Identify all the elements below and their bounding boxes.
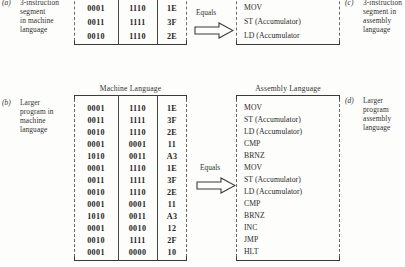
right-block-arrow-icon [196,177,236,194]
table-row: 0010 1111 2F [74,237,187,245]
cell-hex: 3F [157,177,187,185]
cell-operand: 0001 [118,141,157,149]
panel-c-label-line-1: segment in [363,7,405,16]
panel-a-label-line-0: 3-instruction [20,0,74,7]
cell-hex: A3 [157,153,187,161]
cell-operand: 1110 [118,105,157,113]
panel-b-tag: (b) [2,98,17,107]
list-item: CMP [244,200,260,208]
equals-label-top: Equals [196,8,216,17]
table-bottom-edge [74,44,187,45]
cell-opcode: 0010 [74,237,118,245]
table-row: 0001 0001 11 [74,201,187,209]
table-row: 0001 1110 1E [74,165,187,173]
equals-label-bottom: Equals [200,163,220,172]
cell-hex: 11 [157,201,187,209]
cell-opcode: 0001 [74,225,118,233]
list-item: MOV [244,164,262,172]
cell-hex: 2E [157,189,187,197]
table-bottom-edge [74,260,187,261]
cell-opcode: 0010 [74,129,118,137]
cell-hex: 2E [157,33,187,41]
table-row: 0001 0010 12 [74,225,187,233]
cell-operand: 0011 [118,213,157,221]
panel-d-caption: (d) Larger program assembly language [345,96,405,132]
cell-operand: 0000 [118,249,157,257]
table-row: 1010 0011 A3 [74,213,187,221]
cell-hex: 1E [157,165,187,173]
panel-b-label-line-0: Larger [20,98,74,107]
table-row: 0011 1111 3F [74,19,187,27]
cell-opcode: 0001 [74,201,118,209]
cell-opcode: 0010 [74,33,118,41]
panel-c-assembly-box: MOV ST (Accumulator) LD (Accumulator [236,0,340,45]
cell-hex: A3 [157,213,187,221]
table-row: 0011 1111 3F [74,177,187,185]
list-item: INC [244,224,257,232]
table-row: 0001 0000 10 [74,249,187,257]
table-row: 0010 1110 2E [74,33,187,41]
cell-hex: 11 [157,141,187,149]
list-item: BRNZ [244,212,265,220]
box-bottom-edge [236,260,340,261]
panel-a-label-line-2: in machine [20,16,74,25]
list-item: JMP [244,236,258,244]
panel-a-tag: (a) [2,0,17,7]
list-item: ST (Accumulator) [244,18,301,26]
cell-operand: 0010 [118,225,157,233]
panel-c-label-line-2: assembly [363,16,405,25]
panel-a-machine-table: 0001 1110 1E 0011 1111 3F 0010 1110 2E [74,0,187,45]
cell-opcode: 0011 [74,117,118,125]
cell-opcode: 0001 [74,105,118,113]
panel-d-label-line-1: program [363,105,405,114]
panel-b-label-line-1: program in [20,107,74,116]
panel-b-machine-table: 0001 1110 1E 0011 1111 3F 0010 1110 2E 0… [74,95,187,261]
panel-b-label-line-2: machine [20,116,74,125]
table-row: 1010 0011 A3 [74,153,187,161]
panel-d-label-line-3: language [363,123,405,132]
machine-language-heading: Machine Language [74,84,187,93]
cell-opcode: 0001 [74,5,118,13]
panel-c-label-line-0: 3-instruction [363,0,405,7]
panel-a-caption: (a) 3-instruction segment in machine lan… [2,0,74,34]
cell-operand: 1111 [118,117,157,125]
cell-opcode: 0011 [74,177,118,185]
cell-hex: 3F [157,117,187,125]
cell-opcode: 1010 [74,153,118,161]
panel-d-assembly-box: MOV ST (Accumulator) LD (Accumulator) CM… [236,95,340,261]
table-row: 0001 1110 1E [74,5,187,13]
cell-operand: 1110 [118,5,157,13]
cell-hex: 3F [157,19,187,27]
table-row: 0001 1110 1E [74,105,187,113]
cell-opcode: 0010 [74,189,118,197]
box-top-edge [236,95,340,96]
cell-hex: 12 [157,225,187,233]
cell-opcode: 1010 [74,213,118,221]
box-right-rule [339,0,340,41]
table-row: 0010 1110 2E [74,129,187,137]
assembly-language-heading: Assembly Language [236,84,340,93]
list-item: HLT [244,248,258,256]
list-item: LD (Accumulator [244,32,300,40]
box-left-rule [236,0,237,41]
cell-opcode: 0001 [74,141,118,149]
cell-hex: 2F [157,237,187,245]
panel-b-caption: (b) Larger program in machine language [2,98,74,134]
panel-b-label-line-3: language [20,125,74,134]
table-row: 0011 1111 3F [74,117,187,125]
right-block-arrow-icon [194,22,234,39]
list-item: CMP [244,140,260,148]
cell-hex: 2E [157,129,187,137]
panel-a-label-line-3: language [20,25,74,34]
list-item: LD (Accumulator) [244,128,302,136]
panel-d-tag: (d) [345,96,360,105]
cell-operand: 1111 [118,237,157,245]
list-item: ST (Accumulator) [244,116,301,124]
cell-opcode: 0001 [74,165,118,173]
cell-operand: 0011 [118,153,157,161]
cell-operand: 1110 [118,129,157,137]
box-bottom-edge [236,44,340,45]
cell-operand: 1111 [118,177,157,185]
cell-operand: 0001 [118,201,157,209]
panel-d-label-line-0: Larger [363,96,405,105]
